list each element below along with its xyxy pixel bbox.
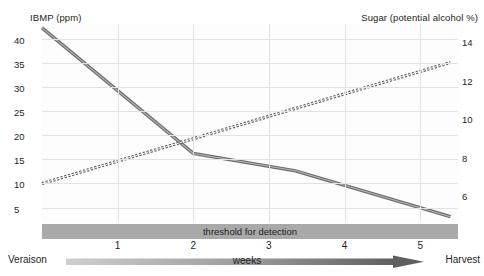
left-tick-label: 35 bbox=[14, 57, 36, 69]
week-tick-label: 5 bbox=[417, 240, 423, 251]
left-axis-title: IBMP (ppm) bbox=[30, 12, 82, 23]
left-tick-label: 10 bbox=[14, 177, 36, 189]
left-axis-tick-labels: 403530252015105 bbox=[14, 0, 36, 276]
gridline-horizontal bbox=[42, 183, 458, 184]
right-tick-label: 6 bbox=[462, 189, 484, 201]
right-axis-title: Sugar (potential alcohol %) bbox=[361, 12, 478, 23]
right-tick-label: 12 bbox=[462, 74, 484, 86]
left-tick-label: 40 bbox=[14, 33, 36, 45]
left-tick-label: 30 bbox=[14, 81, 36, 93]
chart-container: IBMP (ppm) Sugar (potential alcohol %) 4… bbox=[0, 0, 484, 276]
week-tick-label: 3 bbox=[266, 240, 272, 251]
weeks-arrow: weeks bbox=[66, 254, 428, 270]
week-tick-label: 2 bbox=[191, 240, 197, 251]
right-tick-label: 10 bbox=[462, 112, 484, 124]
right-axis-tick-labels: 14121086 bbox=[462, 0, 484, 276]
gridline-horizontal bbox=[42, 39, 458, 40]
gridline-vertical bbox=[118, 24, 119, 222]
series-layer bbox=[42, 24, 458, 222]
gridline-vertical bbox=[193, 24, 194, 222]
threshold-band: threshold for detection bbox=[42, 224, 458, 239]
right-tick-label: 8 bbox=[462, 151, 484, 163]
gridline-vertical bbox=[420, 24, 421, 222]
left-tick-label: 25 bbox=[14, 105, 36, 117]
gridline-horizontal bbox=[42, 135, 458, 136]
plot-area bbox=[42, 24, 458, 222]
left-tick-label: 20 bbox=[14, 129, 36, 141]
gridline-vertical bbox=[345, 24, 346, 222]
x-axis-tick-labels: 12345 bbox=[42, 240, 458, 253]
ibmp-series-line bbox=[42, 28, 450, 217]
gridline-horizontal bbox=[42, 159, 458, 160]
week-tick-label: 1 bbox=[115, 240, 121, 251]
left-tick-label: 15 bbox=[14, 153, 36, 165]
harvest-label: Harvest bbox=[446, 254, 480, 265]
ibmp-series-highlight bbox=[42, 28, 450, 217]
right-tick-label: 14 bbox=[462, 35, 484, 47]
gridline-horizontal bbox=[42, 63, 458, 64]
threshold-label: threshold for detection bbox=[203, 226, 297, 237]
gridline-horizontal bbox=[42, 208, 458, 209]
left-tick-label: 5 bbox=[14, 202, 36, 214]
gridline-vertical bbox=[269, 24, 270, 222]
gridline-horizontal bbox=[42, 111, 458, 112]
week-tick-label: 4 bbox=[342, 240, 348, 251]
veraison-label: Veraison bbox=[8, 254, 47, 265]
weeks-label: weeks bbox=[230, 255, 264, 266]
gridline-horizontal bbox=[42, 87, 458, 88]
